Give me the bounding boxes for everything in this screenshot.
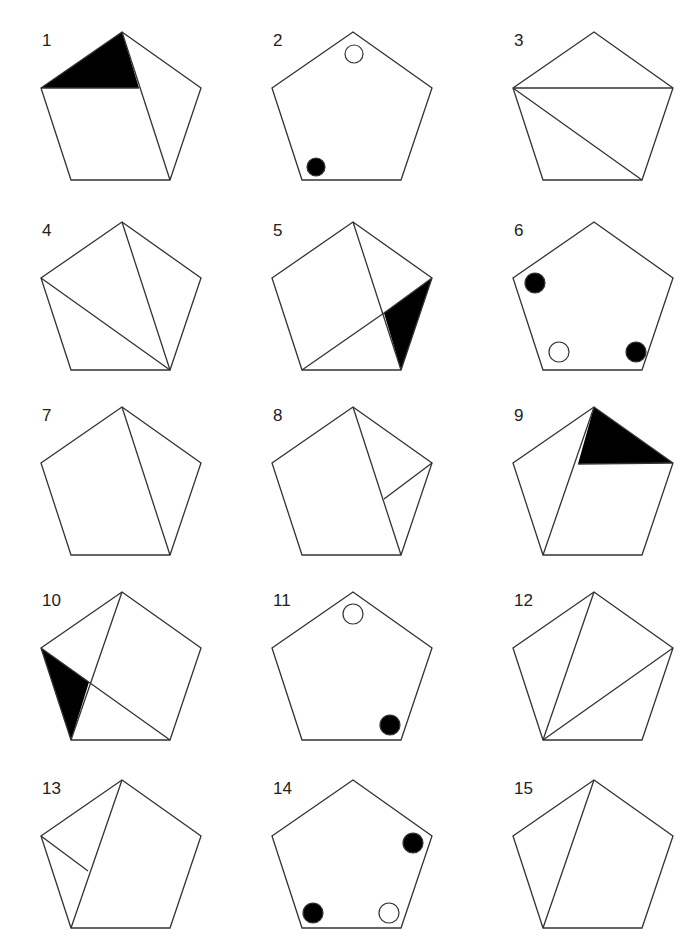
dividing-line xyxy=(122,222,170,370)
hollow-dot xyxy=(345,45,363,63)
dividing-line xyxy=(543,592,594,740)
pentagon-figure xyxy=(0,190,230,380)
figure-14: 14 xyxy=(230,748,460,938)
hollow-dot xyxy=(343,604,363,624)
filled-dot xyxy=(303,903,323,923)
pentagon-outline xyxy=(513,780,673,928)
shaded-triangle xyxy=(41,648,89,740)
figure-7: 7 xyxy=(0,375,230,565)
dividing-line xyxy=(513,88,642,180)
figure-10: 10 xyxy=(0,560,230,750)
pentagon-figure xyxy=(230,560,460,750)
pentagon-figure xyxy=(230,375,460,565)
pentagon-outline xyxy=(41,407,201,555)
pentagon-puzzle-grid: 123456789101112131415 xyxy=(0,0,690,948)
dividing-line xyxy=(543,780,594,928)
pentagon-outline xyxy=(513,592,673,740)
figure-5: 5 xyxy=(230,190,460,380)
pentagon-figure xyxy=(460,748,690,938)
hollow-dot xyxy=(549,342,569,362)
pentagon-figure xyxy=(460,0,690,190)
shaded-triangle xyxy=(578,407,673,464)
shaded-triangle xyxy=(384,278,432,370)
pentagon-outline xyxy=(513,222,673,370)
pentagon-figure xyxy=(0,748,230,938)
pentagon-outline xyxy=(41,222,201,370)
figure-12: 12 xyxy=(460,560,690,750)
figure-15: 15 xyxy=(460,748,690,938)
filled-dot xyxy=(525,273,545,293)
figure-9: 9 xyxy=(460,375,690,565)
dividing-line xyxy=(353,222,401,370)
pentagon-figure xyxy=(460,375,690,565)
pentagon-outline xyxy=(513,32,673,180)
pentagon-figure xyxy=(230,748,460,938)
dividing-line xyxy=(122,407,170,555)
dividing-line xyxy=(543,648,673,740)
figure-11: 11 xyxy=(230,560,460,750)
figure-1: 1 xyxy=(0,0,230,190)
dividing-line xyxy=(41,278,170,370)
pentagon-figure xyxy=(0,0,230,190)
pentagon-figure xyxy=(230,190,460,380)
figure-8: 8 xyxy=(230,375,460,565)
dividing-line xyxy=(353,407,401,555)
figure-6: 6 xyxy=(460,190,690,380)
pentagon-figure xyxy=(460,190,690,380)
figure-3: 3 xyxy=(460,0,690,190)
dividing-line xyxy=(71,592,122,740)
hollow-dot xyxy=(379,903,399,923)
dividing-line xyxy=(543,407,594,555)
dividing-line xyxy=(41,836,88,871)
figure-2: 2 xyxy=(230,0,460,190)
pentagon-figure xyxy=(460,560,690,750)
pentagon-figure xyxy=(0,375,230,565)
filled-dot xyxy=(307,158,325,176)
pentagon-figure xyxy=(230,0,460,190)
pentagon-outline xyxy=(272,780,432,928)
figure-4: 4 xyxy=(0,190,230,380)
dividing-line xyxy=(122,32,170,180)
pentagon-figure xyxy=(0,560,230,750)
dividing-line xyxy=(302,313,384,370)
dividing-line xyxy=(71,780,122,928)
figure-13: 13 xyxy=(0,748,230,938)
filled-dot xyxy=(380,715,400,735)
dividing-line xyxy=(384,463,432,499)
filled-dot xyxy=(403,833,423,853)
filled-dot xyxy=(626,342,646,362)
